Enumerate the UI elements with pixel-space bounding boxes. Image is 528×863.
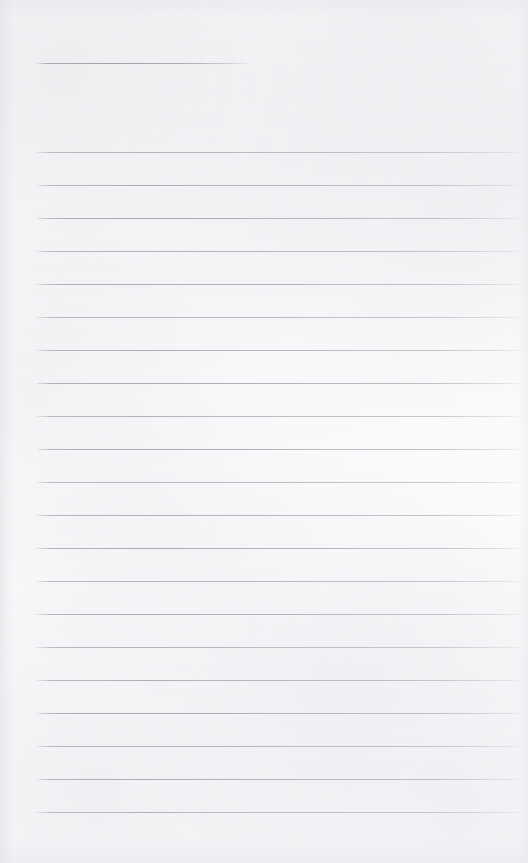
ruled-line (37, 185, 522, 186)
ruled-line (37, 680, 522, 681)
ruled-line (37, 548, 522, 549)
ruled-line (37, 482, 522, 483)
scanned-page (0, 0, 528, 863)
ruled-line (37, 284, 522, 285)
ruled-line (37, 251, 522, 252)
ruled-line (37, 449, 522, 450)
ruled-line (37, 416, 522, 417)
ruled-line (37, 218, 522, 219)
ruled-line (37, 614, 522, 615)
ruled-line (37, 779, 522, 780)
ruled-line (37, 581, 522, 582)
ruled-line (37, 317, 522, 318)
paper-edge-vignette (0, 0, 528, 863)
paper-speckle-texture (0, 0, 528, 863)
ruled-line (37, 152, 522, 153)
ruled-line (37, 746, 522, 747)
ruled-line (37, 350, 522, 351)
ruled-line (37, 647, 522, 648)
ruled-line (37, 812, 522, 813)
header-rule (37, 63, 251, 64)
ruled-line (37, 713, 522, 714)
ruled-line (37, 383, 522, 384)
paper-grain-texture (0, 0, 528, 863)
ruled-line (37, 515, 522, 516)
